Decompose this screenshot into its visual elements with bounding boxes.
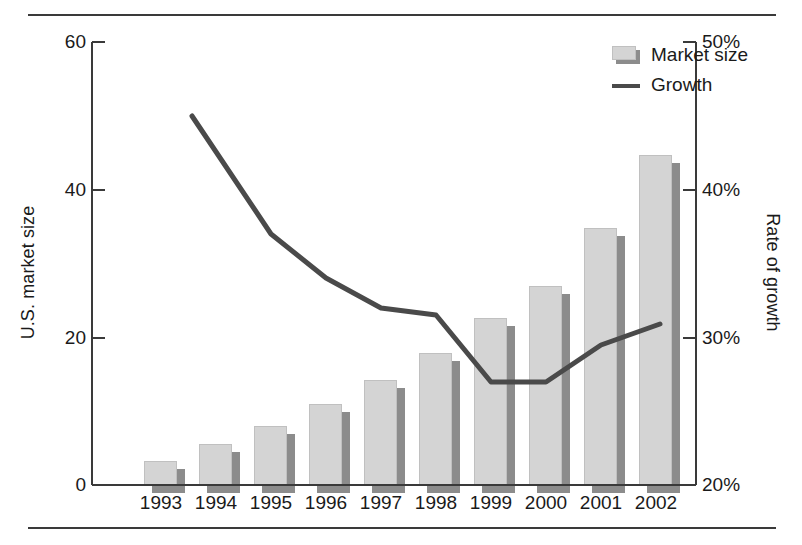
bar-face <box>529 286 562 485</box>
y-axis-right-tick-20: 20% <box>702 474 772 496</box>
x-axis-tick-1997: 1997 <box>351 492 411 514</box>
bar-face <box>254 426 287 485</box>
y-axis-left-tick-20: 20 <box>30 327 86 349</box>
legend-label-growth: Growth <box>651 70 712 100</box>
bar-face <box>584 228 617 485</box>
x-axis-tick-2001: 2001 <box>571 492 631 514</box>
top-divider-rule <box>28 14 776 16</box>
bar-face <box>364 380 397 485</box>
bar-swatch-face <box>612 46 636 60</box>
x-axis-tick-1993: 1993 <box>131 492 191 514</box>
y-axis-left-tick-0: 0 <box>30 474 86 496</box>
x-axis-tick-1996: 1996 <box>296 492 356 514</box>
y-axis-left-tick-40: 40 <box>30 179 86 201</box>
y-axis-left-spine <box>92 42 105 485</box>
chart-legend: Market size Growth <box>612 40 748 100</box>
bar-face <box>144 461 177 485</box>
bar-face <box>419 353 452 485</box>
line-swatch-icon <box>612 76 640 94</box>
legend-label-market-size: Market size <box>651 40 748 70</box>
y-axis-left-tick-60: 60 <box>30 31 86 53</box>
bottom-divider-rule <box>28 527 776 529</box>
bar-face <box>639 155 672 485</box>
y-axis-right-tick-40: 40% <box>702 179 772 201</box>
y-axis-right-spine <box>683 42 696 485</box>
x-axis-tick-2000: 2000 <box>516 492 576 514</box>
legend-item-growth: Growth <box>612 70 748 100</box>
x-axis-tick-1994: 1994 <box>186 492 246 514</box>
legend-item-market-size: Market size <box>612 40 748 70</box>
bar-swatch-icon <box>612 46 640 64</box>
bar-face <box>474 318 507 485</box>
x-axis-tick-1995: 1995 <box>241 492 301 514</box>
line-swatch-stroke <box>612 84 640 88</box>
x-axis-tick-2002: 2002 <box>626 492 686 514</box>
chart-figure: U.S. market size Rate of growth 60 40 20… <box>0 0 802 545</box>
bar-face <box>309 404 342 485</box>
bar-face <box>199 444 232 485</box>
x-axis-tick-1998: 1998 <box>406 492 466 514</box>
y-axis-right-tick-30: 30% <box>702 327 772 349</box>
x-axis-tick-1999: 1999 <box>461 492 521 514</box>
